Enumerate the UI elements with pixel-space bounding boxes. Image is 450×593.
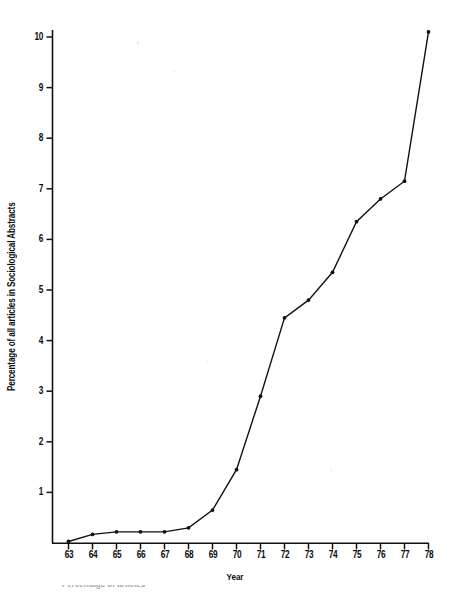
y-axis-tick-label: 9 <box>23 82 43 93</box>
data-point-marker <box>163 530 167 534</box>
y-axis-tick-label: 4 <box>23 335 43 346</box>
x-axis-tick-label: 69 <box>208 550 217 561</box>
data-point-marker <box>403 179 407 183</box>
data-point-marker <box>307 298 311 302</box>
x-axis-tick-label: 72 <box>280 550 289 561</box>
y-axis-tick-label: 8 <box>23 133 43 144</box>
x-axis-tick-label: 63 <box>64 550 73 561</box>
x-axis-tick-label: 77 <box>400 550 409 561</box>
y-axis-tick-label: 1 <box>23 487 43 498</box>
x-axis-tick-label: 70 <box>232 550 241 561</box>
x-axis-tick-label: 66 <box>136 550 145 561</box>
y-axis-tick-label: 2 <box>23 436 43 447</box>
x-axis-tick-label: 65 <box>112 550 121 561</box>
data-point-marker <box>187 526 191 530</box>
x-axis-tick-label: 76 <box>376 550 385 561</box>
data-point-marker <box>331 270 335 274</box>
data-point-marker <box>139 530 143 534</box>
data-series-line <box>69 32 429 542</box>
data-point-marker <box>283 316 287 320</box>
y-axis-tick-label: 3 <box>23 386 43 397</box>
data-point-marker <box>235 468 239 472</box>
y-axis-tick-label: 6 <box>23 234 43 245</box>
data-point-marker <box>211 508 215 512</box>
data-point-markers <box>67 30 431 543</box>
data-point-marker <box>259 394 263 398</box>
x-axis-tick-label: 68 <box>184 550 193 561</box>
data-point-marker <box>379 197 383 201</box>
y-axis-tick-label: 10 <box>23 32 43 43</box>
data-point-marker <box>67 540 71 544</box>
x-axis-tick-label: 78 <box>424 550 433 561</box>
data-point-marker <box>91 533 95 537</box>
x-axis-tick-label: 73 <box>304 550 313 561</box>
y-axis-tick-label: 7 <box>23 183 43 194</box>
x-axis-tick-label: 64 <box>88 550 97 561</box>
x-axis-ticks <box>69 543 429 549</box>
data-point-marker <box>115 530 119 534</box>
data-point-marker <box>427 30 431 34</box>
figure-panel: Percentage of all articles in Sociologic… <box>0 0 450 593</box>
x-axis-tick-label: 74 <box>328 550 337 561</box>
axis-lines <box>52 30 429 543</box>
x-axis-tick-label: 75 <box>352 550 361 561</box>
y-axis-tick-label: 5 <box>23 285 43 296</box>
x-axis-tick-label: 71 <box>256 550 265 561</box>
y-axis-ticks <box>47 37 53 492</box>
x-axis-tick-label: 67 <box>160 550 169 561</box>
data-point-marker <box>355 220 359 224</box>
line-chart-plot <box>0 0 450 593</box>
